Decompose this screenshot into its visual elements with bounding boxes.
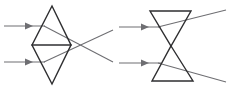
ray-diagram-canvas xyxy=(0,0,229,90)
converging-element-diagram xyxy=(4,6,113,84)
left-refracted-rays xyxy=(44,26,113,62)
diverging-optical-element xyxy=(150,11,193,81)
upper-incoming-ray-arrowhead xyxy=(141,24,149,31)
upper-inverted-triangle xyxy=(150,11,191,46)
converging-optical-element xyxy=(32,6,71,84)
lower-incoming-ray-arrowhead xyxy=(25,59,33,66)
lower-incoming-ray-arrowhead xyxy=(141,60,149,67)
right-refracted-rays xyxy=(158,10,226,82)
ray-diagram-figure xyxy=(0,0,229,90)
upper-refracted-ray xyxy=(158,10,226,27)
lower-triangle-outline xyxy=(32,45,71,84)
diverging-element-diagram xyxy=(119,10,226,82)
right-incoming-rays xyxy=(119,24,161,67)
upper-incoming-ray-arrowhead xyxy=(25,23,33,30)
